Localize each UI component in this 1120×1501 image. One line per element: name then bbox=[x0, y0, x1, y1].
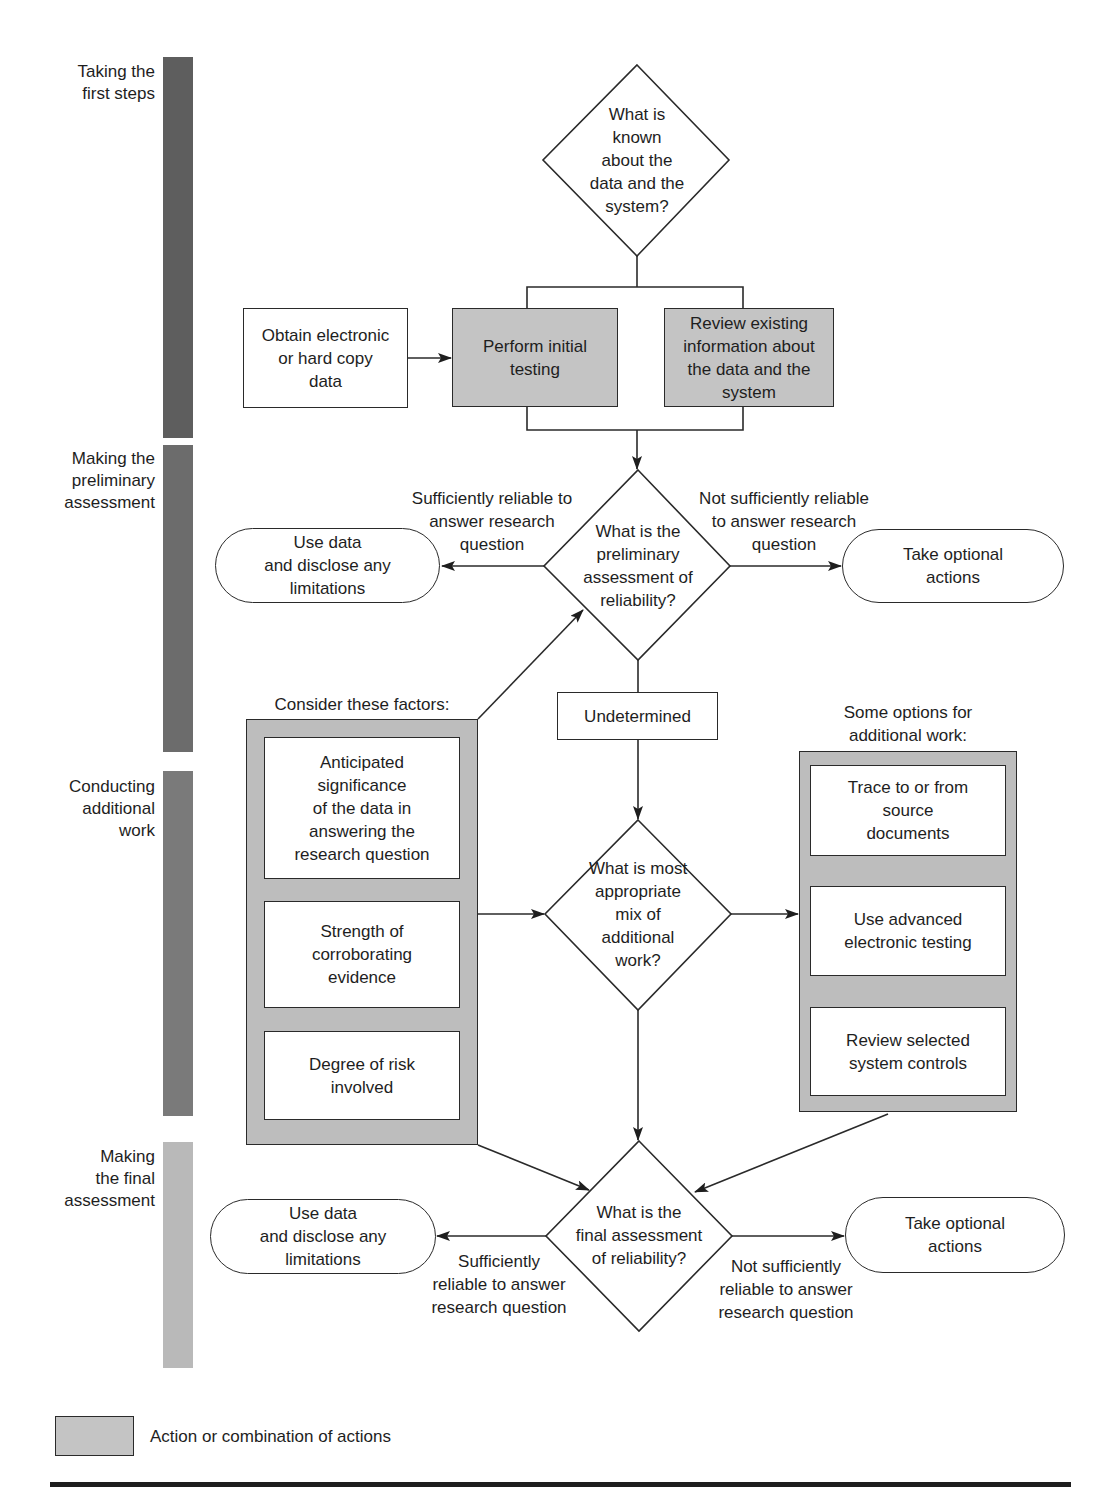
preliminary-use-data-terminal: Use data and disclose any limitations bbox=[215, 528, 440, 603]
preliminary-optional-actions-terminal: Take optional actions bbox=[842, 529, 1064, 603]
legend-label: Action or combination of actions bbox=[150, 1426, 391, 1448]
factors-title: Consider these factors: bbox=[246, 693, 478, 716]
legend-swatch bbox=[55, 1416, 134, 1456]
decision-mix-text: What is most appropriate mix of addition… bbox=[570, 856, 706, 972]
final-not-sufficient-label: Not sufficiently reliable to answer rese… bbox=[696, 1255, 876, 1324]
option-advanced-testing-box: Use advanced electronic testing bbox=[810, 886, 1006, 976]
option-trace-source-box: Trace to or from source documents bbox=[810, 765, 1006, 856]
bottom-rule bbox=[50, 1482, 1071, 1487]
perform-initial-testing-box: Perform initial testing bbox=[452, 308, 618, 407]
final-sufficient-label: Sufficiently reliable to answer research… bbox=[410, 1250, 588, 1319]
review-existing-information-box: Review existing information about the da… bbox=[664, 308, 834, 407]
obtain-data-box: Obtain electronic or hard copy data bbox=[243, 308, 408, 408]
final-use-data-terminal: Use data and disclose any limitations bbox=[210, 1199, 436, 1274]
decision-known-text: What is known about the data and the sys… bbox=[570, 100, 704, 220]
factor-risk-box: Degree of risk involved bbox=[264, 1031, 460, 1120]
factor-significance-box: Anticipated significance of the data in … bbox=[264, 737, 460, 879]
undetermined-box: Undetermined bbox=[557, 692, 718, 740]
option-system-controls-box: Review selected system controls bbox=[810, 1007, 1006, 1096]
factor-corroborating-evidence-box: Strength of corroborating evidence bbox=[264, 901, 460, 1008]
options-title: Some options for additional work: bbox=[790, 701, 1026, 747]
final-optional-actions-terminal: Take optional actions bbox=[845, 1197, 1065, 1273]
